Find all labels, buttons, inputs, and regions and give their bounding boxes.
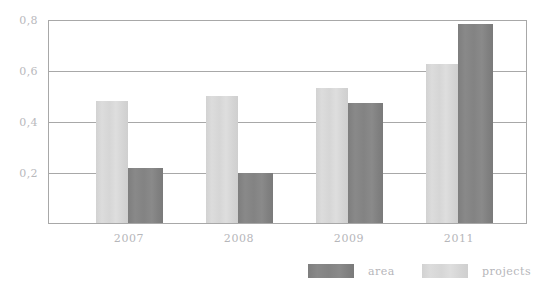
y-axis-tick-label: 0,2: [0, 167, 38, 180]
x-axis-tick-label-2009: 2009: [334, 232, 364, 245]
x-axis-tick-label-2007: 2007: [114, 232, 144, 245]
bar-projects-2008: [206, 96, 238, 223]
chart-title: [0, 0, 546, 5]
legend-label-area: area: [368, 265, 395, 278]
bar-projects-2007: [96, 101, 128, 223]
legend-swatch-projects: [422, 264, 468, 278]
legend-item-projects[interactable]: projects: [422, 262, 531, 280]
bar-area-2009: [348, 103, 383, 223]
legend-item-area[interactable]: area: [308, 262, 395, 280]
plot-area: [48, 20, 527, 224]
bar-area-2011: [458, 24, 493, 223]
x-axis-tick-label-2011: 2011: [444, 232, 474, 245]
y-axis-tick-label: 0,4: [0, 116, 38, 129]
y-axis-tick-label: 0,8: [0, 14, 38, 27]
chart-legend: area projects: [0, 262, 546, 282]
legend-label-projects: projects: [482, 265, 531, 278]
legend-swatch-area: [308, 264, 354, 278]
bar-area-2008: [238, 173, 273, 223]
y-axis-tick-label: 0,6: [0, 65, 38, 78]
bar-projects-2011: [426, 64, 458, 223]
bar-projects-2009: [316, 88, 348, 223]
bar-area-2007: [128, 168, 163, 223]
bar-chart: 0,8 0,6 0,4 0,2 2007 2008 2009 2011 area…: [0, 0, 546, 290]
x-axis-tick-label-2008: 2008: [224, 232, 254, 245]
